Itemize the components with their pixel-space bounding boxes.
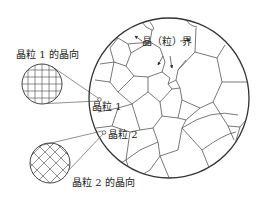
grain2-orientation-label: 晶粒 2 的晶向 <box>72 177 135 188</box>
grain1-orientation-label: 晶粒 1 的晶向 <box>16 49 79 60</box>
grain1-label: 晶粒 1 <box>92 101 122 112</box>
diagram-graphic <box>0 0 263 203</box>
grain-boundary-label: 晶（粒）界 <box>142 36 192 47</box>
grain2-marker <box>102 131 106 135</box>
grain-structure-diagram: 晶粒 1 的晶向 晶（粒）界 晶粒 1 晶粒 2 晶粒 2 的晶向 <box>0 0 263 203</box>
grain2-label: 晶粒 2 <box>108 129 138 140</box>
